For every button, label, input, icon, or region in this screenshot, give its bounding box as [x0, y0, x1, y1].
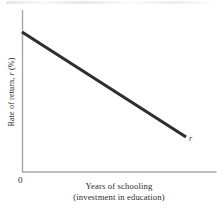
y-axis-label-symbol: r: [7, 72, 16, 75]
y-axis-label-prefix: Rate of return,: [7, 75, 16, 126]
curve-label-r: r: [189, 134, 192, 143]
x-axis-label: Years of schooling (investment in educat…: [22, 181, 216, 204]
y-axis-label-suffix: (%): [7, 57, 16, 72]
x-axis-label-line-2: (investment in education): [22, 192, 216, 203]
rate-of-return-line: [22, 32, 186, 137]
figure-container: Rate of return, r (%) 0 Years of schooli…: [0, 0, 224, 212]
y-axis-label: Rate of return, r (%): [7, 57, 16, 126]
x-axis-label-line-1: Years of schooling: [22, 181, 216, 192]
